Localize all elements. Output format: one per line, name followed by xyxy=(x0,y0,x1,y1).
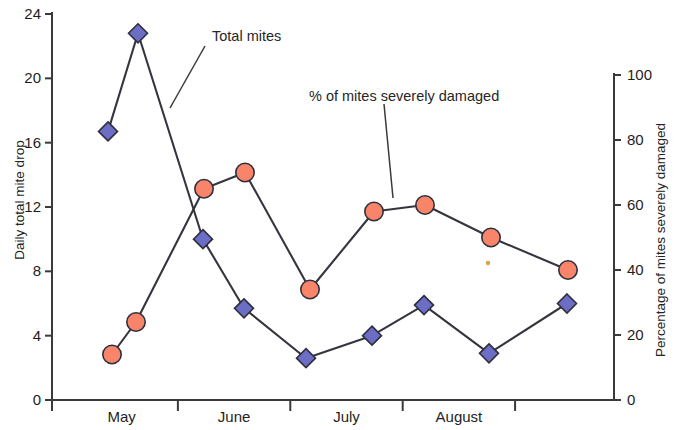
data-point-marker xyxy=(416,196,434,214)
right-tick-label: 100 xyxy=(627,66,652,83)
series-lines xyxy=(108,33,568,358)
data-point-marker xyxy=(415,296,434,315)
series-line-1 xyxy=(108,33,567,358)
category-label: August xyxy=(436,408,484,425)
annotation-pct-damaged: % of mites severely damaged xyxy=(309,88,499,104)
data-point-marker xyxy=(127,313,145,331)
left-tick-label: 0 xyxy=(33,391,41,408)
series-line-2 xyxy=(112,173,568,355)
data-point-marker xyxy=(482,228,500,246)
data-point-marker xyxy=(129,24,148,43)
data-point-marker xyxy=(301,280,319,298)
data-point-marker xyxy=(558,294,577,313)
left-axis-ticks xyxy=(45,14,52,400)
left-tick-label: 24 xyxy=(24,5,41,22)
data-point-marker xyxy=(103,345,121,363)
category-label: June xyxy=(218,408,251,425)
right-tick-label: 20 xyxy=(627,326,644,343)
total-mites-leader-line xyxy=(170,46,205,108)
left-tick-label: 20 xyxy=(24,69,41,86)
right-tick-label: 80 xyxy=(627,131,644,148)
left-tick-label: 4 xyxy=(33,327,41,344)
data-point-marker xyxy=(365,202,383,220)
data-point-marker xyxy=(236,163,254,181)
right-axis-title: Percentage of mites severely damaged xyxy=(653,123,668,357)
pct-damaged-leader-line xyxy=(384,104,393,198)
right-tick-label: 60 xyxy=(627,196,644,213)
data-point-marker xyxy=(99,122,118,141)
right-tick-label: 40 xyxy=(627,261,644,278)
right-axis-ticks xyxy=(614,75,621,400)
category-label: July xyxy=(333,408,360,425)
data-point-marker xyxy=(363,326,382,345)
annotation-total-mites: Total mites xyxy=(212,28,281,44)
series-markers xyxy=(99,24,578,368)
scan-speck xyxy=(486,261,490,265)
data-point-marker xyxy=(194,230,213,249)
category-label: May xyxy=(108,408,137,425)
data-point-marker xyxy=(480,344,499,363)
data-point-marker xyxy=(559,261,577,279)
right-tick-label: 0 xyxy=(627,391,635,408)
mite-drop-line-chart: 04812162024 020406080100 MayJuneJulyAugu… xyxy=(0,0,680,430)
data-point-marker xyxy=(195,180,213,198)
right-axis-tick-labels: 020406080100 xyxy=(627,66,652,408)
axis-lines xyxy=(52,13,614,400)
category-labels: MayJuneJulyAugust xyxy=(108,408,484,425)
left-tick-label: 8 xyxy=(33,262,41,279)
left-axis-title: Daily total mite drop xyxy=(12,140,27,259)
chart-figure: 04812162024 020406080100 MayJuneJulyAugu… xyxy=(0,0,680,430)
